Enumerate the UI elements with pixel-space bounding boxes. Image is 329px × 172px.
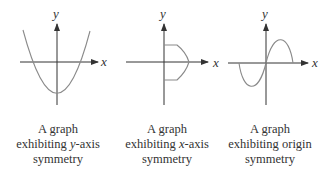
caption-line-1: A graph: [215, 122, 325, 137]
x-axis-label: x: [311, 55, 318, 70]
caption-line-2: exhibiting x-axis: [112, 137, 222, 152]
y-axis-label: y: [158, 6, 166, 21]
caption-line-1: A graph: [112, 122, 222, 137]
caption-line-3: symmetry: [215, 152, 325, 167]
x-axis-label: x: [100, 54, 107, 69]
caption-line-1: A graph: [3, 122, 113, 137]
caption-line-2: exhibiting origin: [215, 137, 325, 152]
y-axis-label: y: [51, 6, 59, 21]
graph-x-axis-symmetry: y: [126, 6, 208, 105]
caption-line-3: symmetry: [3, 152, 113, 167]
x-axis-label-graph2: x: [212, 55, 219, 70]
caption-line-2: exhibiting y-axis: [3, 137, 113, 152]
caption-y-axis-symmetry: A graph exhibiting y-axis symmetry: [3, 122, 113, 167]
caption-line-3: symmetry: [112, 152, 222, 167]
graph-y-axis-symmetry: x y: [20, 6, 107, 105]
symmetry-diagrams: x y y x y x: [0, 0, 329, 125]
caption-x-axis-symmetry: A graph exhibiting x-axis symmetry: [112, 122, 222, 167]
graph-origin-symmetry: x y: [228, 6, 318, 105]
y-axis-label: y: [260, 6, 268, 21]
caption-origin-symmetry: A graph exhibiting origin symmetry: [215, 122, 325, 167]
